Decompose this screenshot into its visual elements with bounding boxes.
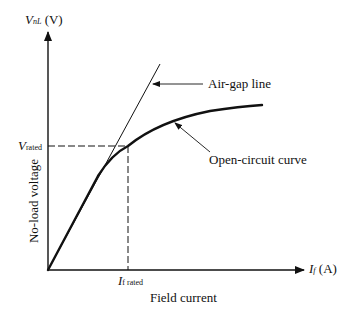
y-axis-title: No-load voltage [26,151,42,251]
occ-annotation-arrow [175,123,210,152]
y-axis-unit: (V) [45,12,63,27]
x-axis-unit: (A) [319,261,337,276]
open-circuit-curve-annotation: Open-circuit curve [209,152,307,168]
y-axis-unit-label: VnL (V) [25,12,63,28]
open-circuit-curve [48,105,262,270]
if-rated-label: If rated [118,273,143,289]
air-gap-line-annotation: Air-gap line [208,76,271,92]
y-axis-var: V [25,12,33,27]
if-rated-sub: f rated [122,278,143,287]
y-axis-sub: nL [33,17,41,26]
x-axis-sub: f [313,266,315,275]
x-axis-unit-label: If (A) [309,261,337,277]
v-rated-var: V [18,138,26,153]
x-axis-title: Field current [150,290,217,306]
